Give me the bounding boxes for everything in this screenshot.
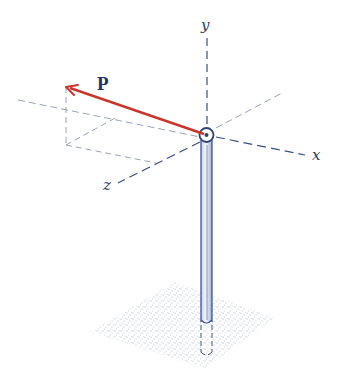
- z-axis: z: [102, 142, 200, 194]
- force-vector-p: P: [66, 73, 204, 134]
- force-diagram: y x z P: [0, 0, 346, 382]
- vector-label-p: P: [97, 73, 109, 94]
- y-axis: y: [200, 16, 210, 128]
- ground-patch: [90, 282, 275, 368]
- x-axis-label: x: [312, 146, 321, 164]
- pole-head: [200, 128, 214, 142]
- x-axis: x: [216, 137, 321, 164]
- z-axis-label: z: [102, 176, 111, 194]
- y-axis-label: y: [200, 16, 210, 34]
